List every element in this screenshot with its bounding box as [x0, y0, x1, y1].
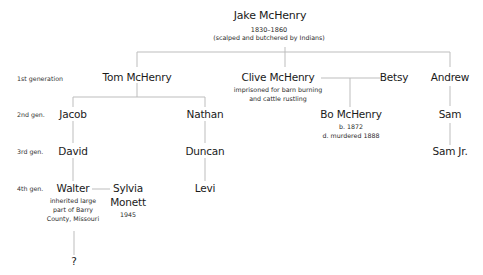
- generation-label-1: 1st generation: [17, 75, 63, 82]
- family-tree-diagram: Jake McHenry 1830–1860 (scalped and butc…: [0, 0, 483, 275]
- generation-label-2: 2nd gen.: [17, 111, 45, 118]
- generation-label-4: 4th gen.: [17, 185, 43, 192]
- person-bo-mchenry: Bo McHenry: [320, 109, 381, 120]
- person-betsy: Betsy: [380, 72, 408, 83]
- person-andrew: Andrew: [431, 72, 469, 83]
- person-levi: Levi: [195, 183, 215, 194]
- person-bo-died: d. murdered 1888: [323, 132, 380, 141]
- person-sam: Sam: [439, 109, 462, 120]
- person-david: David: [58, 146, 87, 157]
- person-nathan: Nathan: [187, 109, 224, 120]
- person-walter: Walter: [57, 183, 90, 194]
- person-walter-note-1: inherited large: [50, 197, 96, 206]
- person-clive-mchenry: Clive McHenry: [242, 72, 315, 83]
- person-clive-note-1: imprisoned for barn burning: [234, 86, 322, 95]
- person-duncan: Duncan: [185, 146, 224, 157]
- person-jake-note: (scalped and butchered by Indians): [213, 34, 325, 43]
- person-jacob: Jacob: [59, 109, 86, 120]
- person-sylvia-name-2: Monett: [110, 197, 146, 208]
- person-tom-mchenry: Tom McHenry: [103, 72, 172, 83]
- person-walter-note-3: County, Missouri: [47, 215, 99, 224]
- person-unknown: ?: [71, 256, 76, 267]
- generation-label-3: 3rd gen.: [17, 148, 43, 155]
- person-walter-note-2: part of Barry: [53, 206, 93, 215]
- person-sylvia-name-1: Sylvia: [113, 183, 143, 194]
- person-clive-note-2: and cattle rustling: [249, 95, 307, 104]
- person-sam-jr: Sam Jr.: [432, 146, 467, 157]
- person-jake-mchenry: Jake McHenry: [234, 10, 306, 21]
- person-bo-born: b. 1872: [339, 123, 363, 132]
- person-sylvia-date: 1945: [120, 211, 136, 220]
